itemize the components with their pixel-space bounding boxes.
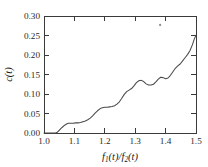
x-tick-label: 1.3 bbox=[129, 136, 141, 146]
x-tick-label: 1.2 bbox=[99, 136, 111, 146]
y-axis-tick-labels: 0.00 0.05 0.10 0.15 0.20 0.25 0.30 bbox=[24, 11, 40, 138]
y-tick-label: 0.30 bbox=[24, 11, 40, 21]
svg-text:f1(t)/f2(t): f1(t)/f2(t) bbox=[102, 151, 138, 164]
x-axis-title-arg1: (t) bbox=[109, 151, 119, 163]
plot-area-background bbox=[44, 16, 196, 133]
y-axis-title: c(t) bbox=[3, 67, 15, 82]
y-tick-label: 0.15 bbox=[24, 70, 40, 80]
y-tick-label: 0.10 bbox=[24, 89, 40, 99]
stray-mark-icon bbox=[159, 24, 161, 26]
y-tick-label: 0.00 bbox=[24, 128, 40, 138]
x-tick-label: 1.5 bbox=[190, 136, 202, 146]
y-tick-label: 0.05 bbox=[24, 109, 40, 119]
svg-text:c(t): c(t) bbox=[3, 67, 15, 82]
x-axis-tick-labels: 1.0 1.1 1.2 1.3 1.4 1.5 bbox=[38, 136, 202, 146]
y-axis-title-arg: (t) bbox=[3, 67, 15, 77]
x-tick-label: 1.4 bbox=[160, 136, 172, 146]
y-tick-label: 0.20 bbox=[24, 50, 40, 60]
x-tick-label: 1.0 bbox=[38, 136, 50, 146]
chart-figure: 1.0 1.1 1.2 1.3 1.4 1.5 0.00 0.05 0.10 0… bbox=[0, 0, 208, 167]
x-axis-title-arg2: (t) bbox=[128, 151, 138, 163]
x-axis-title: f1(t)/f2(t) bbox=[102, 151, 138, 164]
line-chart: 1.0 1.1 1.2 1.3 1.4 1.5 0.00 0.05 0.10 0… bbox=[0, 0, 208, 167]
x-tick-label: 1.1 bbox=[69, 136, 81, 146]
y-tick-label: 0.25 bbox=[24, 31, 40, 41]
